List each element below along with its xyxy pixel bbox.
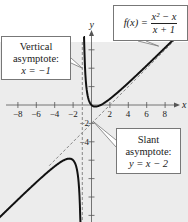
vertical-asymptote-line-2: asymptote: (2, 53, 70, 65)
function-fraction: x² − x x + 1 (151, 11, 178, 36)
x-tick-label: 8 (163, 109, 168, 119)
y-tick-label: −2 (80, 118, 90, 128)
function-numerator: x² − x (151, 11, 178, 24)
y-axis-label: y (89, 19, 95, 30)
x-tick-label: −4 (50, 109, 60, 119)
x-tick-label: 2 (107, 109, 112, 119)
x-tick-label: −2 (68, 109, 78, 119)
y-axis-arrow-icon (89, 30, 94, 36)
y-tick-label: −4 (80, 137, 90, 147)
x-tick-label: −8 (13, 109, 23, 119)
vertical-asymptote-line-3: x = −1 (2, 65, 70, 77)
slant-asymptote-line-1: Slant (117, 134, 180, 146)
x-axis-label: x (181, 99, 187, 110)
vertical-asymptote-line-1: Vertical (2, 41, 70, 53)
slant-asymptote-label: Slant asymptote: y = x − 2 (116, 128, 181, 174)
slant-asymptote-line-2: asymptote: (117, 146, 180, 158)
function-denominator: x + 1 (151, 24, 178, 36)
slant-asymptote-line-3: y = x − 2 (117, 158, 180, 170)
x-tick-label: −6 (31, 109, 41, 119)
vertical-asymptote-label: Vertical asymptote: x = −1 (1, 36, 71, 80)
function-label: f(x) = x² − x x + 1 (113, 5, 188, 41)
function-label-prefix: f(x) = (124, 17, 148, 28)
x-tick-label: 6 (144, 109, 149, 119)
x-tick-label: 4 (126, 109, 131, 119)
